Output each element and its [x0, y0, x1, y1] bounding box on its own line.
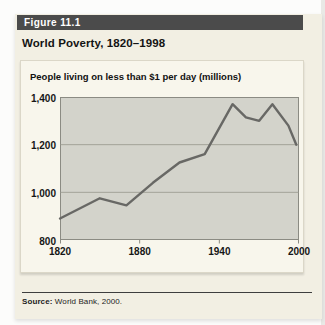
plot-area	[60, 97, 299, 244]
y-tick-label: 1,400	[21, 93, 56, 104]
source-prefix: Source:	[22, 297, 53, 306]
x-tick-label: 1820	[38, 246, 82, 257]
figure-panel: Figure 11.1 World Poverty, 1820–1998 Peo…	[15, 14, 322, 319]
source-divider	[22, 292, 312, 293]
figure-title: World Poverty, 1820–1998	[22, 37, 165, 49]
x-tick-label: 1880	[118, 246, 162, 257]
source-note: Source: World Bank, 2000.	[22, 297, 122, 306]
figure-label: Figure 11.1	[24, 17, 81, 28]
y-tick-label: 1,200	[21, 140, 56, 151]
y-tick-label: 800	[21, 236, 56, 247]
x-tick-label: 2000	[277, 246, 321, 257]
plot-frame	[61, 98, 299, 240]
chart-title: People living on less than $1 per day (m…	[30, 71, 241, 82]
chart-box: People living on less than $1 per day (m…	[20, 60, 304, 273]
y-tick-label: 1,000	[21, 188, 56, 199]
x-tick-label: 1940	[197, 246, 241, 257]
poverty-line-chart	[60, 97, 299, 244]
figure-header-bar: Figure 11.1	[17, 15, 303, 30]
source-text: World Bank, 2000.	[53, 297, 123, 306]
